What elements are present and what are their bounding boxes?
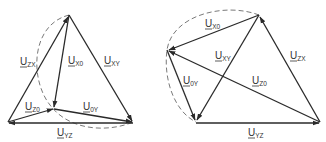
vector-u-zx xyxy=(260,17,320,122)
svg-text:UXY: UXY xyxy=(215,50,232,62)
svg-text:UZX: UZX xyxy=(20,56,36,68)
phasor-diagrams: UZX UX0 UXY UZ0 U0Y UYZ xyxy=(0,0,326,142)
label-u-z0: UZ0 xyxy=(252,75,267,87)
svg-text:UZ0: UZ0 xyxy=(252,75,267,87)
left-phasor-diagram: UZX UX0 UXY UZ0 U0Y UYZ xyxy=(8,15,133,139)
svg-text:UYZ: UYZ xyxy=(57,127,73,139)
label-u-yz: UYZ xyxy=(248,127,264,139)
label-u-z0: UZ0 xyxy=(25,101,40,113)
label-u-zx: UZX xyxy=(20,56,36,68)
svg-text:U0Y: U0Y xyxy=(183,75,199,87)
svg-text:UZX: UZX xyxy=(290,50,306,62)
vector-u-x0 xyxy=(169,15,259,50)
svg-text:UZ0: UZ0 xyxy=(25,101,40,113)
right-phasor-diagram: UX0 UXY UZX U0Y UZ0 UYZ xyxy=(166,10,320,139)
svg-text:UX0: UX0 xyxy=(205,18,221,30)
label-u-x0: UX0 xyxy=(68,55,84,67)
label-u-0y: U0Y xyxy=(183,75,199,87)
svg-text:UYZ: UYZ xyxy=(248,127,264,139)
label-u-xy: UXY xyxy=(215,50,232,62)
svg-text:UX0: UX0 xyxy=(68,55,84,67)
svg-text:UXY: UXY xyxy=(104,55,121,67)
label-u-yz: UYZ xyxy=(57,127,73,139)
label-u-xy: UXY xyxy=(104,55,121,67)
vector-u-xy xyxy=(197,15,259,120)
vector-u-xy xyxy=(69,15,132,121)
label-u-0y: U0Y xyxy=(83,101,99,113)
svg-text:U0Y: U0Y xyxy=(83,101,99,113)
label-u-x0: UX0 xyxy=(205,18,221,30)
label-u-zx: UZX xyxy=(290,50,306,62)
